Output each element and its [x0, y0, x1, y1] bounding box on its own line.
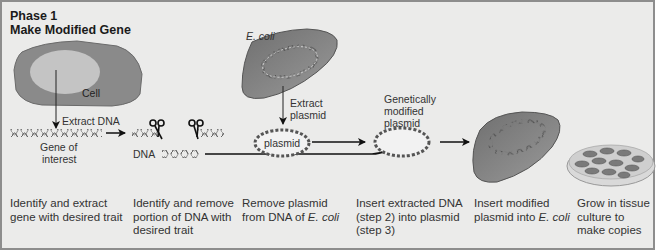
- dna-fragment-right-icon: [198, 129, 224, 137]
- plasmid-label: plasmid: [264, 137, 300, 149]
- cell-icon: [14, 41, 142, 106]
- modified-ecoli-icon: [473, 112, 560, 182]
- cell-label: Cell: [82, 87, 100, 99]
- step-3-caption: Remove plasmid from DNA of E. coli: [242, 197, 339, 224]
- gm-plasmid-label-2: modified: [384, 105, 424, 117]
- phase-subtitle: Make Modified Gene: [10, 23, 131, 37]
- dna-fragment-left-icon: [132, 129, 160, 137]
- gm-plasmid-label-1: Genetically: [384, 93, 436, 105]
- extract-plasmid-label-2: plasmid: [290, 109, 326, 121]
- step-1-caption: Identify and extract gene with desired t…: [10, 197, 123, 224]
- step-4-caption: Insert extracted DNA (step 2) into plasm…: [356, 197, 463, 238]
- step-6-caption: Grow in tissue culture to make copies: [577, 197, 650, 238]
- gene-of-interest-label-1: Gene of: [40, 141, 77, 153]
- extracted-dna-icon: [162, 150, 200, 158]
- petri-dish-icon: [567, 145, 655, 186]
- gm-plasmid-icon: [375, 128, 429, 156]
- extract-plasmid-label-1: Extract: [290, 97, 323, 109]
- gene-of-interest-label-2: interest: [42, 153, 76, 165]
- dna-label: DNA: [133, 148, 155, 160]
- step-5-caption: Insert modified plasmid into E. coli: [474, 197, 570, 224]
- gm-plasmid-label-3: plasmid: [384, 117, 420, 129]
- phase-title: Phase 1: [10, 9, 57, 23]
- step-2-caption: Identify and remove portion of DNA with …: [133, 197, 234, 238]
- extract-dna-label: Extract DNA: [62, 115, 120, 127]
- gene-dna-icon: [10, 129, 102, 137]
- ecoli-label: E. coli: [246, 30, 275, 42]
